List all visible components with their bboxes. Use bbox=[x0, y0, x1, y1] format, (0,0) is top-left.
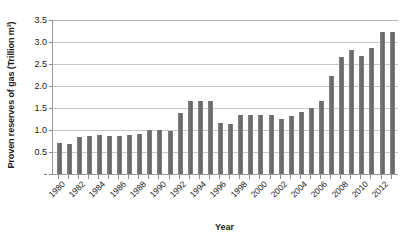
bar bbox=[137, 134, 142, 174]
bar bbox=[77, 137, 82, 174]
bar bbox=[87, 136, 92, 174]
bar-slot bbox=[135, 20, 145, 174]
bar bbox=[359, 56, 364, 174]
bar-slot bbox=[205, 20, 215, 174]
bar bbox=[168, 131, 173, 174]
bar-slot bbox=[216, 20, 226, 174]
bar-slot bbox=[377, 20, 387, 174]
bar-slot bbox=[125, 20, 135, 174]
bar-slot bbox=[367, 20, 377, 174]
bar bbox=[147, 130, 152, 174]
bar-slot bbox=[165, 20, 175, 174]
bar bbox=[238, 115, 243, 174]
y-axis-tick-labels: -0.51.01.52.02.53.03.5 bbox=[20, 14, 50, 174]
bar bbox=[218, 123, 223, 174]
bar-slot bbox=[115, 20, 125, 174]
y-axis-tick-label: 0.5 bbox=[34, 147, 47, 157]
bar-slot bbox=[195, 20, 205, 174]
bar-slot bbox=[64, 20, 74, 174]
bar bbox=[228, 124, 233, 174]
bar-slot bbox=[246, 20, 256, 174]
bar-slot bbox=[286, 20, 296, 174]
plot-area bbox=[52, 20, 398, 175]
bar bbox=[117, 136, 122, 174]
bar-slot bbox=[175, 20, 185, 174]
bar-slot bbox=[185, 20, 195, 174]
bar bbox=[289, 116, 294, 174]
bar bbox=[380, 32, 385, 174]
y-axis-tick-label: 1.5 bbox=[34, 103, 47, 113]
bar-slot bbox=[276, 20, 286, 174]
bar bbox=[349, 50, 354, 174]
bar bbox=[299, 112, 304, 174]
bar bbox=[269, 115, 274, 174]
bar bbox=[390, 32, 395, 174]
x-axis-tick-labels: 1980198219841986198819901992199419961998… bbox=[52, 179, 397, 219]
bar bbox=[97, 135, 102, 174]
bar bbox=[178, 113, 183, 174]
bar bbox=[329, 76, 334, 174]
y-axis-title-label: Proven reserves of gas (Trillion m³) bbox=[6, 22, 16, 169]
y-axis-tick-label: 2.5 bbox=[34, 59, 47, 69]
bar-slot bbox=[145, 20, 155, 174]
bar bbox=[309, 108, 314, 174]
bar-slot bbox=[74, 20, 84, 174]
y-axis-tick-label: 1.0 bbox=[34, 125, 47, 135]
bar-slot bbox=[327, 20, 337, 174]
bar-slot bbox=[84, 20, 94, 174]
bar bbox=[208, 101, 213, 174]
bar bbox=[319, 101, 324, 174]
bar bbox=[67, 144, 72, 174]
bar-slot bbox=[316, 20, 326, 174]
bar bbox=[188, 101, 193, 174]
y-axis-tick-label: - bbox=[44, 169, 47, 179]
bar-slot bbox=[337, 20, 347, 174]
bar-slot bbox=[296, 20, 306, 174]
bar bbox=[248, 115, 253, 174]
bar bbox=[127, 135, 132, 174]
y-axis-title: Proven reserves of gas (Trillion m³) bbox=[0, 0, 22, 190]
bar-slot bbox=[266, 20, 276, 174]
bar bbox=[258, 115, 263, 174]
bar-slot bbox=[387, 20, 397, 174]
bar-slot bbox=[357, 20, 367, 174]
bar-slot bbox=[104, 20, 114, 174]
y-axis-tick-label: 3.0 bbox=[34, 37, 47, 47]
bar-chart-figure: Proven reserves of gas (Trillion m³) -0.… bbox=[0, 0, 409, 245]
bar-slot bbox=[226, 20, 236, 174]
y-axis-tick-label: 2.0 bbox=[34, 81, 47, 91]
bar-slot bbox=[54, 20, 64, 174]
bar bbox=[339, 57, 344, 174]
bar-slot bbox=[306, 20, 316, 174]
x-axis-title: Year bbox=[52, 222, 397, 232]
y-axis-tick-label: 3.5 bbox=[34, 15, 47, 25]
bar bbox=[107, 136, 112, 174]
bar-series bbox=[53, 20, 398, 174]
bar bbox=[369, 48, 374, 174]
bar-slot bbox=[256, 20, 266, 174]
bar-slot bbox=[347, 20, 357, 174]
bar-slot bbox=[236, 20, 246, 174]
bar bbox=[279, 119, 284, 174]
bar bbox=[198, 101, 203, 174]
bar-slot bbox=[155, 20, 165, 174]
bar bbox=[157, 130, 162, 174]
bar bbox=[57, 143, 62, 174]
bar-slot bbox=[94, 20, 104, 174]
